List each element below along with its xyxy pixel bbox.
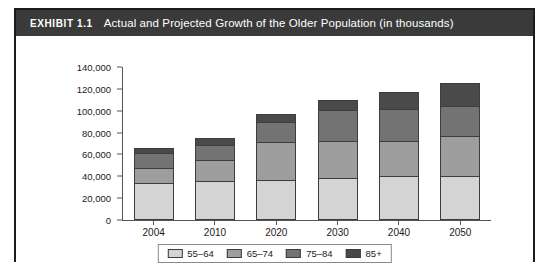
- exhibit-title-text: Actual and Projected Growth of the Older…: [104, 17, 454, 29]
- bar-segment: [134, 153, 174, 167]
- bar-segment: [379, 109, 419, 142]
- bar-column-2030: [318, 36, 358, 220]
- y-axis-tick-label: 100,000: [77, 105, 111, 116]
- legend-item: 75–84: [286, 248, 332, 259]
- y-axis-tick-labels: 140,000120,000100,00080,00060,00040,0002…: [54, 36, 117, 262]
- legend-swatch-icon: [286, 249, 301, 258]
- bar-segment: [318, 100, 358, 110]
- bar-segment: [379, 176, 419, 220]
- legend-item: 85+: [346, 248, 382, 259]
- bar-segment: [134, 183, 174, 220]
- bar-column-2010: [195, 36, 235, 220]
- x-axis-tick-label: 2010: [195, 227, 235, 238]
- exhibit-title-bar: EXHIBIT 1.1 Actual and Projected Growth …: [16, 10, 533, 36]
- y-axis-tick-label: 80,000: [82, 127, 111, 138]
- bar-segment: [195, 160, 235, 181]
- x-axis-tick-mark: [214, 220, 215, 225]
- bar-segment: [379, 92, 419, 108]
- y-axis-tick-label: 120,000: [77, 83, 111, 94]
- y-axis-tick-label: 40,000: [82, 171, 111, 182]
- bar-segment: [134, 168, 174, 183]
- x-axis-tick-label: 2050: [440, 227, 480, 238]
- bar-segment: [256, 142, 296, 179]
- bar-segment: [256, 122, 296, 143]
- x-axis-tick-label: 2004: [134, 227, 174, 238]
- x-axis-tick-mark: [460, 220, 461, 225]
- chart-plot-area: 140,000120,000100,00080,00060,00040,0002…: [16, 36, 533, 262]
- x-axis-tick-marks: [123, 220, 491, 226]
- x-axis-tick-label: 2030: [318, 227, 358, 238]
- y-axis-tick-label: 20,000: [82, 193, 111, 204]
- bar-group: [123, 36, 491, 220]
- bar-column-2020: [256, 36, 296, 220]
- legend-label: 65–74: [247, 248, 273, 259]
- bar-segment: [318, 110, 358, 142]
- legend-swatch-icon: [167, 249, 182, 258]
- bar-segment: [256, 114, 296, 122]
- x-axis-tick-label: 2020: [256, 227, 296, 238]
- bar-segment: [195, 181, 235, 220]
- bar-segment: [318, 141, 358, 178]
- bar-segment: [440, 106, 480, 136]
- legend-swatch-icon: [227, 249, 242, 258]
- legend-swatch-icon: [346, 249, 361, 258]
- y-axis-tick-label: 140,000: [77, 62, 111, 73]
- x-axis-tick-mark: [337, 220, 338, 225]
- x-axis-tick-labels: 200420102020203020402050: [123, 227, 491, 238]
- legend-item: 65–74: [227, 248, 273, 259]
- bar-segment: [440, 136, 480, 176]
- x-axis-tick-mark: [276, 220, 277, 225]
- bar-segment: [379, 141, 419, 176]
- legend-item: 55–64: [167, 248, 213, 259]
- y-axis-tick-label: 0: [106, 215, 111, 226]
- bar-column-2004: [134, 36, 174, 220]
- bar-segment: [256, 180, 296, 220]
- bar-column-2040: [379, 36, 419, 220]
- bar-segment: [440, 176, 480, 220]
- legend-label: 55–64: [187, 248, 213, 259]
- chart-legend: 55–6465–7475–8485+: [157, 244, 391, 263]
- bar-column-2050: [440, 36, 480, 220]
- exhibit-frame: EXHIBIT 1.1 Actual and Projected Growth …: [14, 8, 535, 262]
- x-axis-tick-mark: [153, 220, 154, 225]
- x-axis-tick-mark: [398, 220, 399, 225]
- y-axis-tick-label: 60,000: [82, 149, 111, 160]
- bar-segment: [440, 83, 480, 106]
- bar-segment: [318, 178, 358, 220]
- bar-segment: [195, 145, 235, 160]
- x-axis-tick-label: 2040: [379, 227, 419, 238]
- legend-label: 85+: [366, 248, 382, 259]
- legend-label: 75–84: [306, 248, 332, 259]
- exhibit-number-label: EXHIBIT 1.1: [30, 18, 93, 29]
